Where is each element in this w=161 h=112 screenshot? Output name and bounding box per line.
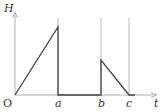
origin-label: O xyxy=(3,97,12,110)
h-vs-t-diagram: H O a b c t xyxy=(0,0,161,112)
tick-label-b: b xyxy=(98,97,105,110)
tick-label-c: c xyxy=(126,97,132,110)
x-axis-label: t xyxy=(154,97,159,110)
h-curve xyxy=(15,27,135,95)
y-axis-label: H xyxy=(3,2,14,15)
tick-label-a: a xyxy=(55,97,62,110)
diagram-canvas: H O a b c t xyxy=(0,0,161,112)
